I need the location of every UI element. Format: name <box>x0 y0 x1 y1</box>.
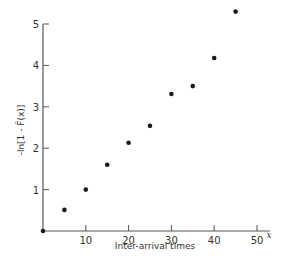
y-tick-label: 1 <box>33 185 39 196</box>
data-point <box>62 208 67 213</box>
x-axis-title: Inter-arrival times <box>115 241 196 251</box>
data-point <box>126 141 131 146</box>
data-point <box>105 162 110 167</box>
y-axis-title: -ln[1 - F̂(x)] <box>15 105 26 156</box>
data-point <box>41 229 46 234</box>
x-tick-label: 50 <box>251 235 264 246</box>
x-tick-label: 40 <box>208 235 221 246</box>
axes: 123451020304050 <box>33 19 270 246</box>
y-tick-label: 2 <box>33 143 39 154</box>
y-tick-label: 5 <box>33 19 39 30</box>
data-point <box>148 124 153 129</box>
data-point <box>191 84 196 89</box>
data-point <box>169 92 174 97</box>
data-point <box>212 56 217 61</box>
x-variable-label: x <box>266 230 271 240</box>
x-tick-label: 10 <box>79 235 92 246</box>
scatter-chart: 123451020304050 Inter-arrival times x -l… <box>0 0 291 264</box>
y-tick-label: 3 <box>33 102 39 113</box>
data-points <box>41 9 238 233</box>
data-point <box>233 9 238 14</box>
y-tick-label: 4 <box>33 60 39 71</box>
data-point <box>84 187 89 192</box>
